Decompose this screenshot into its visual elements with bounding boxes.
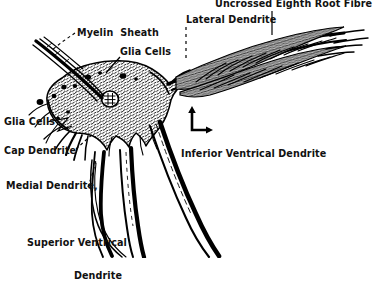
label-medial-dendrite: Medial Dendrite, bbox=[6, 181, 98, 191]
inferior-ventrical-dendrite bbox=[150, 122, 219, 257]
axis-orientation-marker bbox=[188, 106, 213, 134]
label-cap-dendrite: Cap Dendrite bbox=[4, 146, 76, 156]
label-superior-ventrical-dendrite-line1: Superior Ventrical bbox=[27, 237, 122, 248]
nucleus bbox=[102, 91, 119, 107]
label-superior-ventrical-dendrite-line2: Dendrite bbox=[27, 270, 122, 281]
label-superior-ventrical-dendrite: Superior Ventrical Dendrite bbox=[27, 215, 122, 283]
label-lateral-dendrite: Lateral Dendrite bbox=[186, 15, 276, 25]
leader-myelin-sheath bbox=[52, 33, 75, 50]
lateral-dendrite bbox=[168, 27, 368, 97]
label-uncrossed-eighth-root-fibre: Uncrossed Eighth Root Fibre bbox=[215, 0, 372, 9]
label-inferior-ventrical-dendrite: Inferior Ventrical Dendrite bbox=[181, 149, 326, 159]
label-myelin-sheath: Myelin Sheath bbox=[77, 28, 159, 38]
label-glia-cells-left: Glia Cells bbox=[4, 117, 55, 127]
label-glia-cells-top: Glia Cells bbox=[120, 47, 171, 57]
